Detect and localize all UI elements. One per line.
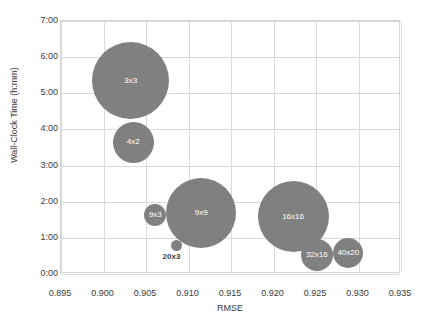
- y-axis-tick-label: 1:00: [2, 232, 58, 242]
- bubble-point[interactable]: 9x9: [166, 178, 236, 248]
- bubble-label: 9x3: [149, 211, 162, 219]
- x-axis-tick-label: 0.910: [176, 288, 199, 298]
- bubble-label: 20x3: [163, 253, 181, 261]
- bubble-label: 40x20: [337, 249, 359, 257]
- plot-area: 3x34x29x39x920x316x1632x1640x20: [60, 20, 400, 273]
- gridline-horizontal: [61, 274, 399, 275]
- x-axis-tick-labels: 0.8950.9000.9050.9100.9150.9200.9250.930…: [60, 288, 400, 302]
- x-axis-tick-label: 0.935: [389, 288, 412, 298]
- bubble-label: 3x3: [124, 77, 137, 85]
- bubble-point[interactable]: [171, 240, 182, 251]
- bubble-chart: 3x34x29x39x920x316x1632x1640x20 0:001:00…: [0, 0, 429, 332]
- gridline-vertical: [61, 21, 62, 272]
- bubble-label: 16x16: [282, 213, 304, 221]
- bubble-label: 32x16: [306, 251, 328, 259]
- x-axis-title: RMSE: [60, 303, 400, 313]
- gridline-vertical: [231, 21, 232, 272]
- bubble-point[interactable]: 32x16: [301, 239, 333, 271]
- bubble-point[interactable]: 3x3: [92, 42, 169, 119]
- x-axis-tick-label: 0.930: [346, 288, 369, 298]
- x-axis-tick-label: 0.895: [49, 288, 72, 298]
- gridline-horizontal: [61, 166, 399, 167]
- y-axis-tick-label: 7:00: [2, 15, 58, 25]
- y-axis-title: Wall-Clock Time (h:mm): [9, 55, 19, 175]
- x-axis-tick-label: 0.915: [219, 288, 242, 298]
- bubble-label: 4x2: [127, 138, 140, 146]
- gridline-horizontal: [61, 129, 399, 130]
- bubble-point[interactable]: 4x2: [113, 122, 154, 163]
- x-axis-tick-label: 0.920: [261, 288, 284, 298]
- bubble-label: 9x9: [195, 209, 208, 217]
- x-axis-tick-label: 0.925: [304, 288, 327, 298]
- bubble-point[interactable]: 9x3: [144, 204, 166, 226]
- y-axis-tick-label: 2:00: [2, 196, 58, 206]
- gridline-vertical: [401, 21, 402, 272]
- y-axis-tick-label: 0:00: [2, 268, 58, 278]
- gridline-horizontal: [61, 21, 399, 22]
- x-axis-tick-label: 0.900: [91, 288, 114, 298]
- gridline-vertical: [359, 21, 360, 272]
- x-axis-tick-label: 0.905: [134, 288, 157, 298]
